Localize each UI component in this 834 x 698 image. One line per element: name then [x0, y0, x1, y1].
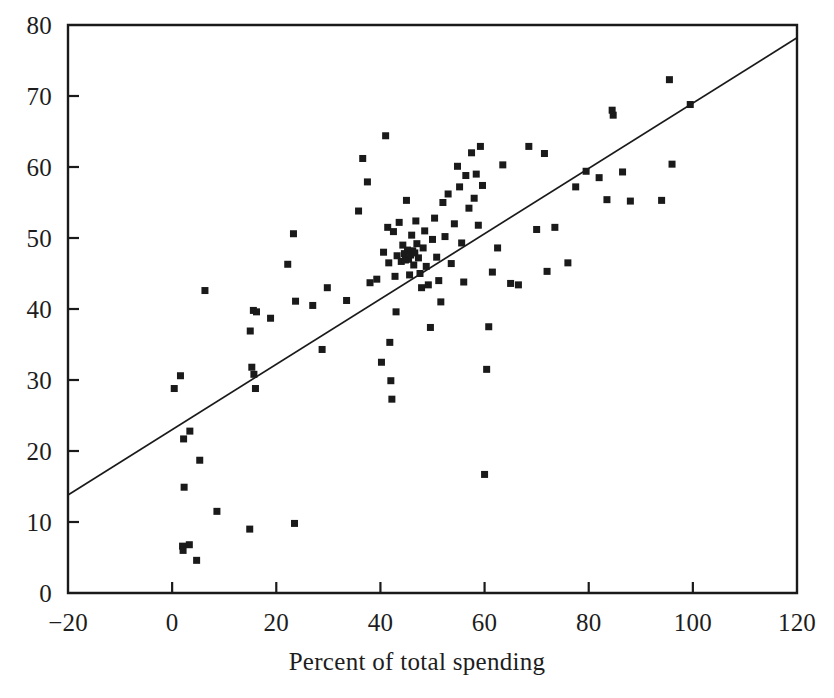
- data-point: [479, 182, 486, 189]
- data-point: [385, 259, 392, 266]
- plot-frame: [68, 25, 797, 593]
- data-point: [456, 183, 463, 190]
- y-tick-label-0: 0: [0, 581, 52, 606]
- data-point: [201, 287, 208, 294]
- data-point: [246, 526, 253, 533]
- data-point: [355, 208, 362, 215]
- data-point: [429, 236, 436, 243]
- data-point: [454, 163, 461, 170]
- data-point: [186, 541, 193, 548]
- data-point: [186, 428, 193, 435]
- data-point: [687, 101, 694, 108]
- data-point: [390, 228, 397, 235]
- data-point: [437, 298, 444, 305]
- data-point: [193, 557, 200, 564]
- data-point: [247, 328, 254, 335]
- data-point: [533, 226, 540, 233]
- x-tick-label-0: 0: [166, 610, 179, 635]
- data-point: [253, 308, 260, 315]
- plot-border: [68, 25, 797, 593]
- data-point: [544, 268, 551, 275]
- data-point: [250, 371, 257, 378]
- data-point: [658, 197, 665, 204]
- data-point: [393, 308, 400, 315]
- data-point: [343, 297, 350, 304]
- data-point: [483, 366, 490, 373]
- scatter-plot-figure: 01020304050607080 −20020406080100120 Per…: [0, 0, 834, 698]
- data-point: [213, 508, 220, 515]
- data-point: [458, 239, 465, 246]
- data-point: [417, 270, 424, 277]
- data-point: [666, 76, 673, 83]
- data-point: [387, 377, 394, 384]
- data-point: [619, 168, 626, 175]
- x-tick-label-120: 120: [778, 610, 816, 635]
- data-point: [418, 284, 425, 291]
- data-point: [596, 174, 603, 181]
- plot-canvas: [0, 0, 834, 698]
- data-point: [196, 457, 203, 464]
- data-point: [324, 284, 331, 291]
- data-point: [433, 254, 440, 261]
- data-point: [373, 276, 380, 283]
- data-point: [410, 261, 417, 268]
- y-tick-label-50: 50: [0, 226, 52, 251]
- x-tick-label-40: 40: [368, 610, 393, 635]
- data-point: [583, 168, 590, 175]
- y-tick-label-60: 60: [0, 155, 52, 180]
- data-point: [499, 161, 506, 168]
- data-point: [515, 281, 522, 288]
- data-point: [423, 263, 430, 270]
- data-point: [309, 302, 316, 309]
- data-point: [477, 143, 484, 150]
- data-point: [408, 232, 415, 239]
- y-tick-label-30: 30: [0, 368, 52, 393]
- data-point: [420, 244, 427, 251]
- x-axis-title: Percent of total spending: [0, 648, 834, 676]
- x-tick-label--20: −20: [48, 610, 88, 635]
- data-point: [406, 271, 413, 278]
- data-point: [171, 385, 178, 392]
- data-point: [465, 205, 472, 212]
- data-point: [396, 219, 403, 226]
- data-point: [445, 190, 452, 197]
- data-point: [435, 277, 442, 284]
- data-point: [292, 298, 299, 305]
- data-point: [448, 260, 455, 267]
- data-point: [415, 254, 422, 261]
- data-point: [462, 172, 469, 179]
- data-point: [627, 198, 634, 205]
- data-point: [603, 196, 610, 203]
- data-point: [403, 197, 410, 204]
- data-point: [319, 346, 326, 353]
- y-tick-label-80: 80: [0, 13, 52, 38]
- data-point: [439, 199, 446, 206]
- data-points: [171, 76, 694, 564]
- data-point: [485, 323, 492, 330]
- data-point: [421, 227, 428, 234]
- data-point: [425, 281, 432, 288]
- data-point: [460, 279, 467, 286]
- data-point: [551, 224, 558, 231]
- data-point: [380, 249, 387, 256]
- data-point: [669, 161, 676, 168]
- data-point: [177, 372, 184, 379]
- data-point: [181, 484, 188, 491]
- data-point: [541, 150, 548, 157]
- data-point: [180, 547, 187, 554]
- data-point: [412, 217, 419, 224]
- data-point: [564, 259, 571, 266]
- x-tick-label-60: 60: [472, 610, 497, 635]
- data-point: [507, 280, 514, 287]
- data-point: [572, 183, 579, 190]
- data-point: [525, 143, 532, 150]
- data-point: [248, 364, 255, 371]
- x-tick-label-80: 80: [576, 610, 601, 635]
- data-point: [284, 261, 291, 268]
- data-point: [382, 132, 389, 139]
- data-point: [489, 269, 496, 276]
- data-point: [442, 233, 449, 240]
- data-point: [386, 339, 393, 346]
- data-point: [367, 279, 374, 286]
- data-point: [451, 220, 458, 227]
